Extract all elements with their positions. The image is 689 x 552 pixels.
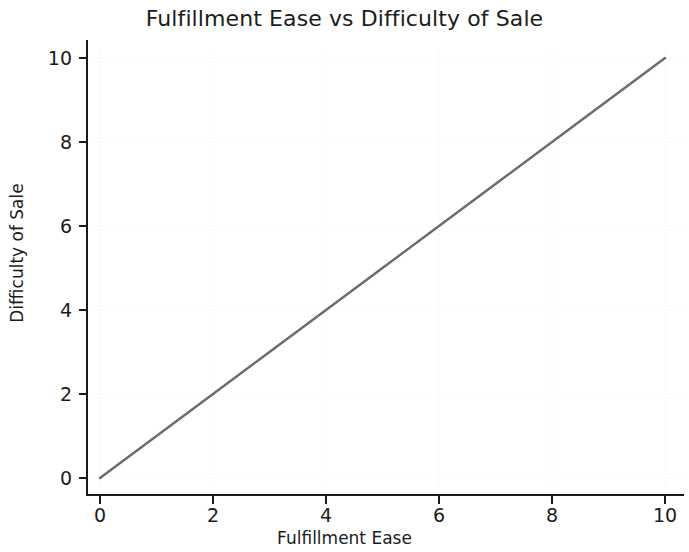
x-tick-mark bbox=[212, 496, 214, 504]
y-tick-mark bbox=[79, 309, 87, 311]
x-tick-label: 10 bbox=[653, 504, 677, 526]
chart-title: Fulfillment Ease vs Difficulty of Sale bbox=[0, 6, 689, 31]
x-tick-label-wrapper: 10 bbox=[635, 506, 689, 526]
x-tick-label-wrapper: 6 bbox=[409, 506, 469, 526]
y-tick-label: 10 bbox=[12, 49, 72, 68]
y-tick-mark bbox=[79, 477, 87, 479]
x-tick-mark bbox=[664, 496, 666, 504]
y-tick-label: 2 bbox=[12, 385, 72, 404]
x-tick-mark bbox=[438, 496, 440, 504]
y-tick-mark bbox=[79, 57, 87, 59]
x-tick-label: 0 bbox=[94, 504, 106, 526]
x-tick-label: 4 bbox=[320, 504, 332, 526]
x-axis-title: Fulfillment Ease bbox=[0, 528, 689, 548]
y-tick-mark bbox=[79, 225, 87, 227]
y-axis-spine bbox=[86, 40, 88, 496]
x-tick-label: 2 bbox=[207, 504, 219, 526]
y-tick-mark bbox=[79, 393, 87, 395]
y-axis-title-wrapper: Difficulty of Sale bbox=[6, 143, 28, 363]
y-axis-title: Difficulty of Sale bbox=[6, 143, 28, 363]
x-tick-label: 6 bbox=[433, 504, 445, 526]
plot-area bbox=[100, 58, 665, 478]
chart-figure: Fulfillment Ease vs Difficulty of Sale 0… bbox=[0, 0, 689, 552]
y-tick-mark bbox=[79, 141, 87, 143]
x-tick-label-wrapper: 4 bbox=[296, 506, 356, 526]
data-polyline bbox=[100, 58, 665, 478]
x-tick-mark bbox=[551, 496, 553, 504]
y-tick-label: 0 bbox=[12, 469, 72, 488]
x-tick-label: 8 bbox=[546, 504, 558, 526]
data-line-series bbox=[100, 58, 665, 478]
x-axis-spine bbox=[86, 494, 684, 496]
x-tick-label-wrapper: 0 bbox=[70, 506, 130, 526]
x-tick-label-wrapper: 2 bbox=[183, 506, 243, 526]
x-tick-label-wrapper: 8 bbox=[522, 506, 582, 526]
x-tick-mark bbox=[325, 496, 327, 504]
x-tick-mark bbox=[99, 496, 101, 504]
